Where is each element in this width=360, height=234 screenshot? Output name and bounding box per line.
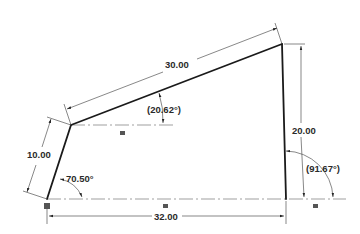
angle-label-top-slant: (20.62°) xyxy=(147,104,181,115)
angle-label-left-bottom: 70.50° xyxy=(66,173,94,184)
fixed-point-icon[interactable] xyxy=(44,203,50,209)
dimension-label-bottom-length: 32.00 xyxy=(154,211,178,222)
right-edge[interactable] xyxy=(282,44,286,199)
dimension-right-height[interactable]: 20.00 xyxy=(284,44,316,197)
sketch-canvas: 30.00 10.00 20.00 32.00 70.50° (20.62°) … xyxy=(0,0,360,234)
angle-right-bottom[interactable]: (91.67°) xyxy=(286,151,340,197)
angle-label-right-bottom: (91.67°) xyxy=(306,163,340,174)
left-edge[interactable] xyxy=(47,125,71,199)
horizontal-constraint-icon[interactable] xyxy=(120,131,125,135)
horizontal-constraint-icon[interactable] xyxy=(313,204,318,208)
angle-top-slant[interactable]: (20.62°) xyxy=(147,93,181,123)
horizontal-constraint-icon[interactable] xyxy=(163,204,168,208)
dimension-label-left-edge: 10.00 xyxy=(27,149,51,160)
angle-left-bottom[interactable]: 70.50° xyxy=(60,173,94,197)
dimension-label-top-slant: 30.00 xyxy=(165,59,189,70)
dimension-left-edge[interactable]: 10.00 xyxy=(23,117,71,199)
dimension-label-right-height: 20.00 xyxy=(292,125,316,136)
